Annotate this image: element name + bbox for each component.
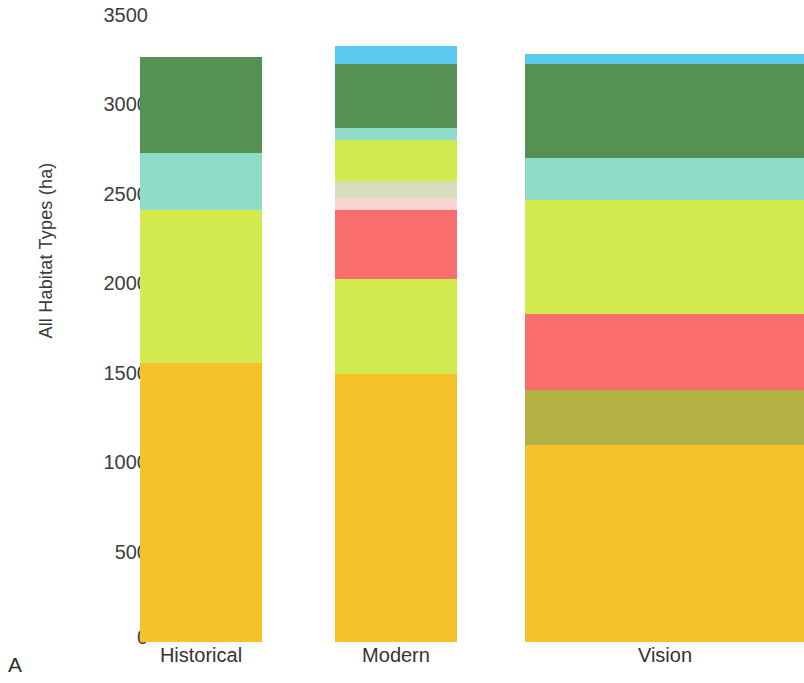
bar-segment-skyblue[interactable] xyxy=(335,46,457,64)
bar-segment-olive[interactable] xyxy=(525,390,804,445)
bar-segment-teal[interactable] xyxy=(335,128,457,140)
bar-segment-salmon[interactable] xyxy=(335,210,457,279)
bar-segment-yellowgreen2[interactable] xyxy=(335,279,457,374)
bar-vision[interactable] xyxy=(525,54,804,642)
bar-segment-orange[interactable] xyxy=(335,374,457,642)
bar-segment-teal[interactable] xyxy=(140,153,262,210)
bar-segment-teal[interactable] xyxy=(525,158,804,200)
category-label-historical: Historical xyxy=(160,644,242,667)
category-label-vision: Vision xyxy=(638,644,692,667)
bar-segment-yellowgreen[interactable] xyxy=(140,210,262,363)
bar-historical[interactable] xyxy=(140,57,262,642)
category-label-modern: Modern xyxy=(362,644,430,667)
bar-segment-darkgreen[interactable] xyxy=(335,64,457,128)
plot-area: HistoricalModernVision xyxy=(0,0,804,683)
panel-letter: A xyxy=(8,653,22,677)
bar-segment-orange[interactable] xyxy=(140,363,262,642)
bar-segment-salmon[interactable] xyxy=(525,314,804,390)
bar-modern[interactable] xyxy=(335,46,457,642)
bar-segment-yellowgreen[interactable] xyxy=(525,200,804,314)
bar-segment-orange[interactable] xyxy=(525,445,804,642)
bar-segment-sage[interactable] xyxy=(335,181,457,198)
bar-segment-yellowgreen[interactable] xyxy=(335,140,457,181)
bar-segment-darkgreen[interactable] xyxy=(140,57,262,153)
bar-segment-palepink[interactable] xyxy=(335,198,457,210)
bar-segment-skyblue[interactable] xyxy=(525,54,804,64)
bar-segment-darkgreen[interactable] xyxy=(525,64,804,158)
chart-root: All Habitat Types (ha) 35003000250020001… xyxy=(0,0,804,683)
